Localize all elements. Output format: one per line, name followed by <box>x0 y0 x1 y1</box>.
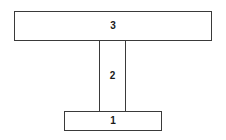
region-top-flange: 3 <box>14 11 212 41</box>
region-top-flange-label: 3 <box>15 21 211 31</box>
region-bottom-flange: 1 <box>64 111 162 131</box>
region-bottom-flange-label: 1 <box>65 116 161 126</box>
region-web-label: 2 <box>100 71 125 81</box>
region-web: 2 <box>99 41 126 111</box>
diagram-canvas: 3 2 1 <box>0 0 226 140</box>
